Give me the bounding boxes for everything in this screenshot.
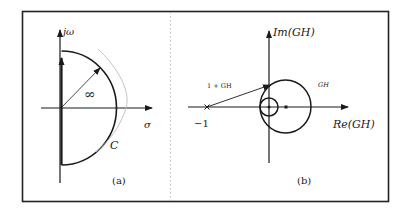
panel-b-gh-plane: Im(GH) 1 + GH GH −1 Re(GH) (b) (188, 26, 375, 186)
panel-a-caption: (a) (112, 175, 126, 186)
minus-one-label: −1 (194, 118, 209, 129)
jw-label: jω (61, 26, 74, 37)
panel-a-s-plane: jω ∞ σ C (a) (41, 26, 152, 186)
one-plus-gh-label: 1 + GH (207, 82, 232, 90)
gray-curve (96, 49, 127, 152)
contour-c-label: C (110, 139, 119, 152)
gh-curve-label: GH (318, 81, 329, 89)
re-gh-label: Re(GH) (332, 118, 375, 131)
infinity-label: ∞ (84, 86, 96, 102)
origin-dot (268, 106, 271, 109)
im-gh-label: Im(GH) (272, 26, 315, 39)
sigma-label: σ (144, 119, 152, 130)
center-marker (285, 106, 288, 109)
panel-b-caption: (b) (297, 175, 311, 186)
nyquist-figure: jω ∞ σ C (a) Im(GH) 1 + GH GH −1 Re(GH) … (0, 0, 407, 212)
